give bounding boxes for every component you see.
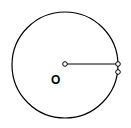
radius-endpoint (116, 62, 121, 67)
center-label: O (51, 73, 60, 87)
circle-diagram: O (0, 0, 131, 128)
circumference-point (116, 70, 121, 75)
center-point (63, 62, 68, 67)
